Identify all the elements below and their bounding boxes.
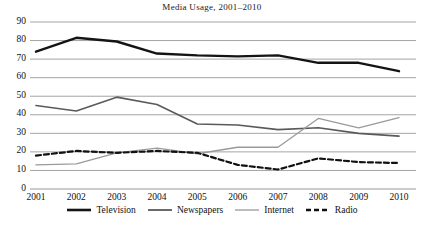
legend-swatch-television: [66, 206, 92, 214]
x-tick-label: 2003: [97, 192, 137, 202]
x-tick-label: 2008: [298, 192, 338, 202]
x-tick-label: 2007: [258, 192, 298, 202]
legend-item-newspapers[interactable]: Newspapers: [147, 205, 223, 215]
legend-label-television: Television: [96, 205, 135, 215]
legend-swatch-newspapers: [147, 206, 173, 214]
x-tick-label: 2002: [56, 192, 96, 202]
y-tick-label: 10: [0, 164, 26, 174]
series-line-television: [36, 38, 399, 71]
legend-item-internet[interactable]: Internet: [234, 205, 294, 215]
chart-container: Media Usage, 2001–2010 01020304050607080…: [0, 0, 424, 226]
x-tick-label: 2010: [379, 192, 419, 202]
legend-label-radio: Radio: [335, 205, 358, 215]
chart-legend: Television Newspapers Internet Radio: [0, 205, 424, 215]
x-tick-label: 2005: [177, 192, 217, 202]
x-tick-label: 2001: [16, 192, 56, 202]
x-tick-label: 2006: [218, 192, 258, 202]
y-tick-label: 30: [0, 127, 26, 137]
legend-swatch-radio: [305, 206, 331, 214]
y-tick-label: 90: [0, 16, 26, 26]
y-tick-label: 20: [0, 145, 26, 155]
y-tick-label: 80: [0, 34, 26, 44]
gridlines-group: [30, 22, 416, 189]
legend-item-radio[interactable]: Radio: [305, 205, 358, 215]
series-line-newspapers: [36, 97, 399, 136]
y-tick-label: 60: [0, 71, 26, 81]
y-tick-label: 40: [0, 108, 26, 118]
y-tick-label: 50: [0, 90, 26, 100]
legend-swatch-internet: [234, 206, 260, 214]
data-series-group: [36, 38, 399, 170]
x-tick-label: 2004: [137, 192, 177, 202]
legend-label-newspapers: Newspapers: [177, 205, 223, 215]
y-tick-label: 0: [0, 183, 26, 193]
legend-label-internet: Internet: [264, 205, 294, 215]
legend-item-television[interactable]: Television: [66, 205, 135, 215]
y-tick-label: 70: [0, 53, 26, 63]
x-tick-label: 2009: [339, 192, 379, 202]
